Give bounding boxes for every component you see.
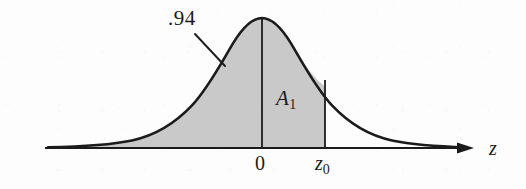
z0-tick-label: z0 — [315, 153, 330, 177]
axis-arrowhead-icon — [457, 143, 474, 154]
z0-symbol: z — [315, 152, 323, 174]
area-symbol: A — [276, 86, 289, 110]
shaded-area-region — [48, 19, 325, 148]
origin-tick-label: 0 — [255, 153, 265, 173]
normal-distribution-figure: .94 A1 0 z0 z — [0, 0, 526, 189]
probability-leader-line — [195, 34, 225, 66]
probability-label: .94 — [168, 8, 196, 29]
z0-subscript: 0 — [323, 162, 330, 177]
area-a1-label: A1 — [276, 88, 296, 112]
area-subscript: 1 — [289, 97, 296, 112]
axis-z-label: z — [489, 138, 497, 158]
